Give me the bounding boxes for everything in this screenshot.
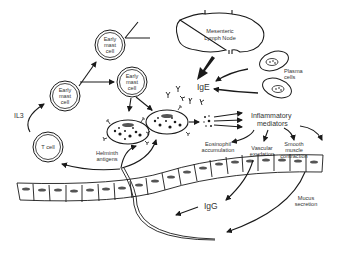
t-cell-label: T cell: [41, 144, 54, 150]
mast-cell-2: [146, 105, 190, 136]
mucus-label-2: secretion: [295, 201, 318, 207]
ige-label: IgE: [197, 82, 210, 92]
eosinophil-label-2: accumulation: [202, 147, 235, 153]
thick-arrow-icon: [197, 56, 215, 80]
lymph-node-label-2: Lymph Node: [204, 35, 236, 41]
inflammatory-label-1: Inflammatory: [251, 112, 292, 120]
mesenteric-lymph-node: Mesenteric Lymph Node: [176, 10, 263, 54]
early-mast-cell-top: Early mast cell: [95, 30, 125, 60]
plasma-cells-label-2: cells: [284, 74, 295, 80]
svg-text:cell: cell: [61, 99, 69, 105]
early-mast-cell-left: Early mast cell: [50, 81, 80, 111]
early-mast-cell-right: Early mast cell: [117, 67, 147, 97]
igg-label: IgG: [204, 201, 218, 211]
inflammatory-label-2: mediators: [257, 120, 288, 127]
helminth-label-2: antigens: [96, 156, 117, 162]
il3-label: IL3: [14, 112, 24, 119]
helminth-immune-response-diagram: Mesenteric Lymph Node Plasma cells IgE E…: [0, 0, 338, 257]
lymph-node-label-1: Mesenteric: [206, 28, 234, 34]
svg-text:cell: cell: [128, 85, 136, 91]
svg-text:cell: cell: [106, 48, 114, 54]
t-cell: T cell: [33, 132, 63, 162]
mediator-granules: [203, 115, 212, 127]
smooth-muscle-label-3: contraction: [280, 153, 307, 159]
mast-cell-1: [103, 117, 149, 145]
